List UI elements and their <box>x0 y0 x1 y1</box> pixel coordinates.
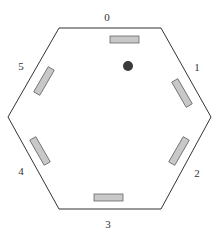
center-dot <box>123 61 133 71</box>
panel-2 <box>169 137 190 166</box>
panel-3 <box>94 194 123 201</box>
side-label-3: 3 <box>105 218 111 230</box>
hexagon-diagram: 0 1 2 3 4 5 <box>0 0 220 237</box>
side-label-2: 2 <box>194 167 200 179</box>
side-label-5: 5 <box>18 60 24 72</box>
side-label-1: 1 <box>194 61 200 73</box>
panel-1 <box>172 79 193 108</box>
side-label-4: 4 <box>18 165 24 177</box>
side-label-0: 0 <box>104 11 110 23</box>
panel-0 <box>110 36 139 43</box>
panel-5 <box>34 67 55 96</box>
hexagon-outline <box>8 28 211 209</box>
